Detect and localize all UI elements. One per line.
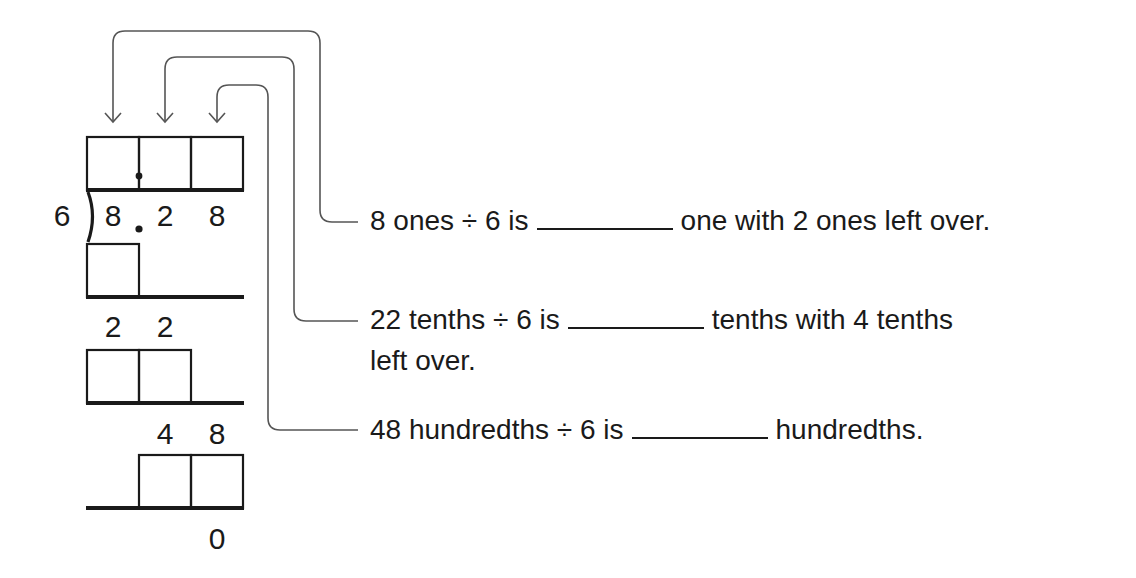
- remainder-1-digit-b: 2: [139, 312, 191, 342]
- remainder-2-digit-a: 4: [139, 419, 191, 449]
- dividend-digit-tenths: 2: [139, 201, 191, 231]
- quotient-decimal-point: [136, 173, 143, 180]
- statement-tenths-prefix: 22 tenths ÷ 6 is: [370, 304, 560, 335]
- divisor: 6: [36, 201, 88, 231]
- remainder-3-digit: 0: [191, 524, 243, 554]
- subtract-box-3a: [139, 455, 191, 508]
- remainder-1-digit-a: 2: [87, 312, 139, 342]
- statement-hundredths-suffix: hundredths.: [776, 414, 924, 445]
- subtract-box-2b: [139, 350, 191, 403]
- quotient-box-hundredths: [191, 137, 243, 190]
- answer-blank-ones[interactable]: [537, 202, 673, 230]
- dividend-digit-hundredths: 8: [191, 201, 243, 231]
- remainder-2-digit-b: 8: [191, 419, 243, 449]
- diagram-lines: [0, 0, 1136, 578]
- statement-tenths-continuation: left over.: [370, 343, 476, 379]
- statement-hundredths-prefix: 48 hundredths ÷ 6 is: [370, 414, 624, 445]
- subtract-box-3b: [191, 455, 243, 508]
- quotient-box-ones: [87, 137, 139, 190]
- statement-hundredths: 48 hundredths ÷ 6 ishundredths.: [370, 411, 923, 448]
- dividend-digit-ones: 8: [87, 201, 139, 231]
- long-division-worksheet: 6 8 2 8 2 2 4 8 0 8 ones ÷ 6 isone with …: [0, 0, 1136, 578]
- statement-ones-suffix: one with 2 ones left over.: [681, 205, 991, 236]
- statement-tenths: 22 tenths ÷ 6 istenths with 4 tenths: [370, 301, 953, 338]
- quotient-box-tenths: [139, 137, 191, 190]
- statement-tenths-suffix: tenths with 4 tenths: [712, 304, 953, 335]
- connector-ones: [113, 31, 358, 222]
- answer-blank-hundredths[interactable]: [632, 411, 768, 439]
- subtract-box-1a: [87, 244, 139, 297]
- subtract-box-2a: [87, 350, 139, 403]
- statement-ones: 8 ones ÷ 6 isone with 2 ones left over.: [370, 202, 990, 239]
- answer-blank-tenths[interactable]: [568, 301, 704, 329]
- statement-ones-prefix: 8 ones ÷ 6 is: [370, 205, 529, 236]
